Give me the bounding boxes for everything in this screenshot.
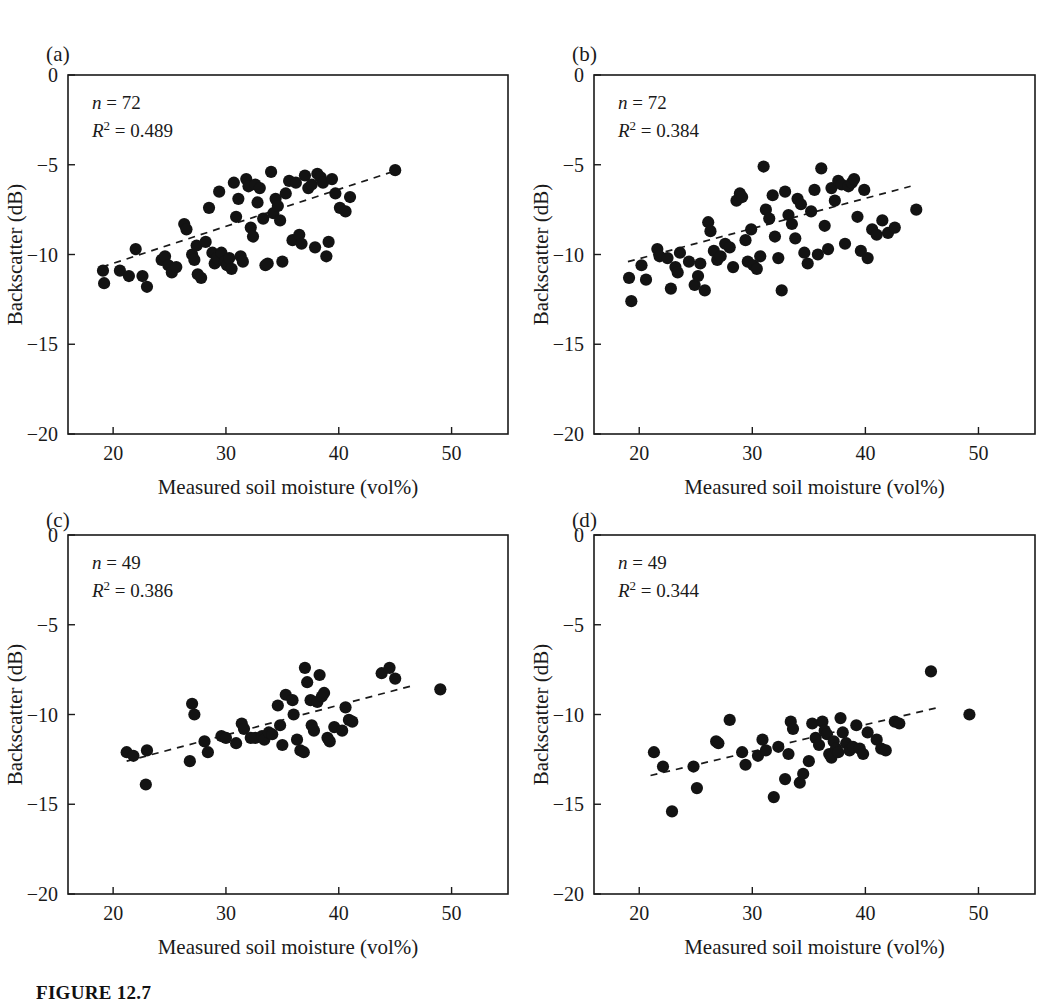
scatter-point <box>857 748 869 760</box>
scatter-point <box>782 748 794 760</box>
y-tick-label: −5 <box>37 154 58 176</box>
scatter-point <box>798 247 810 259</box>
scatter-point <box>383 662 395 674</box>
scatter-point <box>786 218 798 230</box>
scatter-point <box>776 284 788 296</box>
scatter-point <box>339 205 351 217</box>
scatter-point <box>170 261 182 273</box>
scatter-point <box>640 274 652 286</box>
scatter-point <box>203 202 215 214</box>
scatter-point <box>813 739 825 751</box>
scatter-point <box>291 734 303 746</box>
annotation-r2: R2 = 0.386 <box>91 578 173 602</box>
x-tick-label: 30 <box>216 442 236 464</box>
scatter-point <box>228 177 240 189</box>
panel-d: (d) 203040500−5−10−15−20Measured soil mo… <box>526 500 1053 960</box>
scatter-point <box>180 223 192 235</box>
scatter-point <box>389 164 401 176</box>
scatter-point <box>625 295 637 307</box>
x-tick-label: 50 <box>442 442 462 464</box>
y-axis-title: Backscatter (dB) <box>529 644 553 786</box>
scatter-point <box>286 694 298 706</box>
scatter-point <box>736 746 748 758</box>
scatter-point <box>754 250 766 262</box>
scatter-point <box>819 220 831 232</box>
annotation-n: n = 49 <box>618 552 667 573</box>
scatter-point <box>739 234 751 246</box>
panel-c-tag: (c) <box>46 508 70 533</box>
scatter-point <box>925 665 937 677</box>
scatter-point <box>769 230 781 242</box>
scatter-point <box>751 263 763 275</box>
panel-b: (b) 203040500−5−10−15−20Measured soil mo… <box>526 0 1053 500</box>
panel-a-plot: 203040500−5−10−15−20Measured soil moistu… <box>0 0 526 500</box>
x-tick-label: 50 <box>442 902 462 924</box>
scatter-point <box>202 746 214 758</box>
scatter-point <box>276 739 288 751</box>
scatter-point <box>272 699 284 711</box>
scatter-point <box>848 173 860 185</box>
y-axis-title: Backscatter (dB) <box>529 184 553 326</box>
panel-b-tag: (b) <box>572 42 597 67</box>
y-tick-label: −10 <box>553 704 584 726</box>
scatter-point <box>858 184 870 196</box>
scatter-point <box>692 270 704 282</box>
scatter-point <box>247 230 259 242</box>
scatter-point <box>691 782 703 794</box>
scatter-point <box>336 725 348 737</box>
scatter-point <box>623 272 635 284</box>
scatter-point <box>130 243 142 255</box>
y-tick-label: −5 <box>563 154 584 176</box>
scatter-point <box>127 750 139 762</box>
scatter-point <box>889 221 901 233</box>
scatter-point <box>768 791 780 803</box>
scatter-point <box>184 755 196 767</box>
annotation-r2: R2 = 0.344 <box>617 578 700 602</box>
scatter-point <box>803 755 815 767</box>
scatter-point <box>213 186 225 198</box>
y-tick-label: −5 <box>563 614 584 636</box>
y-tick-label: −20 <box>553 883 584 905</box>
scatter-point <box>802 257 814 269</box>
scatter-point <box>280 187 292 199</box>
scatter-point <box>295 238 307 250</box>
scatter-point <box>230 211 242 223</box>
scatter-point <box>237 256 249 268</box>
scatter-point <box>329 187 341 199</box>
scatter-point <box>140 778 152 790</box>
panel-d-plot: 203040500−5−10−15−20Measured soil moistu… <box>526 500 1053 960</box>
scatter-point <box>346 716 358 728</box>
scatter-series <box>121 662 447 791</box>
y-tick-label: −10 <box>27 704 58 726</box>
x-tick-label: 30 <box>216 902 236 924</box>
scatter-point <box>963 708 975 720</box>
y-tick-label: −20 <box>27 423 58 445</box>
figure-caption: FIGURE 12.7 <box>36 982 151 1004</box>
scatter-point <box>763 213 775 225</box>
y-axis-title: Backscatter (dB) <box>3 184 27 326</box>
scatter-point <box>724 714 736 726</box>
panel-c: (c) 203040500−5−10−15−20Measured soil mo… <box>0 500 526 960</box>
scatter-point <box>745 223 757 235</box>
scatter-point <box>123 270 135 282</box>
x-axis-title: Measured soil moisture (vol%) <box>158 935 419 959</box>
scatter-point <box>232 193 244 205</box>
scatter-point <box>298 746 310 758</box>
scatter-point <box>797 768 809 780</box>
scatter-point <box>672 266 684 278</box>
scatter-point <box>262 257 274 269</box>
scatter-point <box>313 669 325 681</box>
scatter-point <box>254 182 266 194</box>
scatter-point <box>141 281 153 293</box>
scatter-point <box>851 211 863 223</box>
scatter-point <box>320 250 332 262</box>
scatter-point <box>265 166 277 178</box>
scatter-point <box>195 272 207 284</box>
scatter-point <box>808 184 820 196</box>
scatter-point <box>276 256 288 268</box>
scatter-point <box>434 683 446 695</box>
panel-a: (a) 203040500−5−10−15−20Measured soil mo… <box>0 0 526 500</box>
scatter-point <box>223 252 235 264</box>
scatter-point <box>736 191 748 203</box>
scatter-point <box>795 198 807 210</box>
